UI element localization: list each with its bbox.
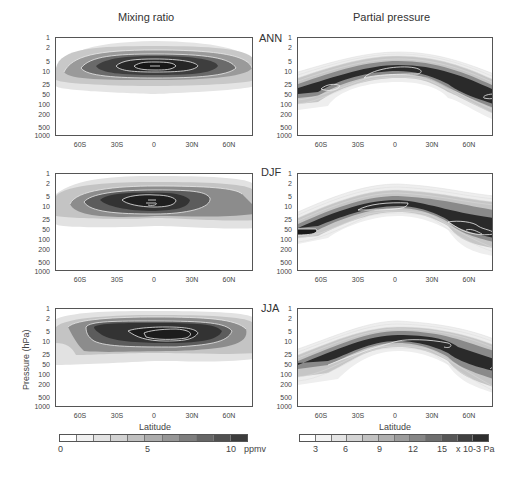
colorbar-left-tick-10: 10: [226, 444, 236, 454]
colorbar-swatch: [442, 435, 458, 441]
colorbar-swatch: [458, 435, 474, 441]
colorbar-right-tick-15: 15: [437, 444, 447, 454]
colorbar-left-tick-5: 5: [145, 444, 150, 454]
right-column-title: Partial pressure: [353, 11, 430, 23]
colorbar-swatch: [197, 435, 214, 441]
colorbar-partial-pressure: [299, 434, 489, 442]
colorbar-swatch: [60, 435, 77, 441]
colorbar-swatch: [300, 435, 316, 441]
colorbar-swatch: [94, 435, 111, 441]
colorbar-swatch: [332, 435, 348, 441]
colorbar-swatch: [77, 435, 94, 441]
colorbar-swatch: [316, 435, 332, 441]
colorbar-left-tick-0: 0: [58, 444, 63, 454]
colorbar-left-unit: ppmv: [244, 444, 266, 454]
colorbar-swatch: [379, 435, 395, 441]
plot-partial-pressure-jja: [297, 308, 493, 407]
colorbar-mixing-ratio: [59, 434, 248, 442]
colorbar-right-unit: x 10-3 Pa: [456, 444, 495, 454]
colorbar-swatch: [180, 435, 197, 441]
x-axis-label-right: Latitude: [379, 422, 411, 432]
colorbar-swatch: [347, 435, 363, 441]
x-axis-label-left: Latitude: [139, 422, 171, 432]
colorbar-swatch: [363, 435, 379, 441]
plot-mixing-ratio-djf: [55, 173, 253, 271]
colorbar-swatch: [128, 435, 145, 441]
plot-mixing-ratio-jja: [55, 308, 253, 407]
colorbar-swatch: [111, 435, 128, 441]
colorbar-right-tick-3: 3: [313, 444, 318, 454]
plot-mixing-ratio-ann: [55, 37, 253, 136]
plot-partial-pressure-ann: [297, 37, 493, 136]
plot-partial-pressure-djf: [297, 173, 493, 271]
colorbar-swatch: [395, 435, 411, 441]
colorbar-right-tick-9: 9: [377, 444, 382, 454]
left-column-title: Mixing ratio: [118, 11, 174, 23]
colorbar-swatch: [163, 435, 180, 441]
colorbar-swatch: [410, 435, 426, 441]
colorbar-swatch: [473, 435, 488, 441]
colorbar-swatch: [145, 435, 162, 441]
colorbar-right-tick-12: 12: [408, 444, 418, 454]
colorbar-swatch: [426, 435, 442, 441]
colorbar-swatch: [214, 435, 231, 441]
colorbar-right-tick-6: 6: [343, 444, 348, 454]
colorbar-swatch: [231, 435, 247, 441]
